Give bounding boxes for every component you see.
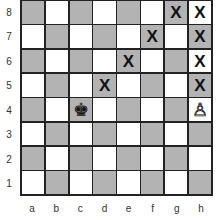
x-mark: X xyxy=(194,4,205,21)
square-d4[interactable] xyxy=(93,98,115,121)
square-c1[interactable] xyxy=(70,171,92,194)
square-a3[interactable] xyxy=(22,123,44,146)
square-e3[interactable] xyxy=(117,123,139,146)
square-c3[interactable] xyxy=(70,123,92,146)
square-h5[interactable]: X xyxy=(189,74,211,97)
square-b3[interactable] xyxy=(46,123,68,146)
square-h8[interactable]: X xyxy=(189,1,211,24)
square-b1[interactable] xyxy=(46,171,68,194)
rank-label: 1 xyxy=(0,172,18,197)
square-g5[interactable] xyxy=(165,74,187,97)
square-g4[interactable] xyxy=(165,98,187,121)
file-label: c xyxy=(68,199,92,217)
rank-label: 5 xyxy=(0,74,18,99)
square-h7[interactable]: X xyxy=(189,25,211,48)
square-f1[interactable] xyxy=(141,171,163,194)
file-label: a xyxy=(20,199,44,217)
white-pawn-icon[interactable]: ♙ xyxy=(192,101,208,119)
square-f7[interactable]: X xyxy=(141,25,163,48)
square-e2[interactable] xyxy=(117,147,139,170)
file-label: f xyxy=(141,199,165,217)
file-label: d xyxy=(92,199,116,217)
file-label: g xyxy=(165,199,189,217)
square-c2[interactable] xyxy=(70,147,92,170)
square-e5[interactable] xyxy=(117,74,139,97)
square-a6[interactable] xyxy=(22,50,44,73)
rank-label: 2 xyxy=(0,147,18,172)
square-a8[interactable] xyxy=(22,1,44,24)
square-f4[interactable] xyxy=(141,98,163,121)
square-b2[interactable] xyxy=(46,147,68,170)
square-g1[interactable] xyxy=(165,171,187,194)
file-labels: abcdefgh xyxy=(20,199,213,217)
square-f6[interactable] xyxy=(141,50,163,73)
rank-label: 8 xyxy=(0,0,18,25)
file-label: h xyxy=(189,199,213,217)
square-h6[interactable]: X xyxy=(189,50,211,73)
square-f3[interactable] xyxy=(141,123,163,146)
square-g7[interactable] xyxy=(165,25,187,48)
x-mark: X xyxy=(99,77,110,94)
square-h3[interactable] xyxy=(189,123,211,146)
black-king-icon[interactable]: ♚ xyxy=(73,101,89,119)
x-mark: X xyxy=(147,28,158,45)
square-d8[interactable] xyxy=(93,1,115,24)
file-label: b xyxy=(44,199,68,217)
square-e7[interactable] xyxy=(117,25,139,48)
square-e1[interactable] xyxy=(117,171,139,194)
square-a5[interactable] xyxy=(22,74,44,97)
square-b8[interactable] xyxy=(46,1,68,24)
file-label: e xyxy=(117,199,141,217)
x-mark: X xyxy=(170,4,181,21)
square-h4[interactable]: ♙ xyxy=(189,98,211,121)
square-d3[interactable] xyxy=(93,123,115,146)
square-f8[interactable] xyxy=(141,1,163,24)
square-h1[interactable] xyxy=(189,171,211,194)
chess-board: XXXXXXXX♚♙ xyxy=(20,0,213,196)
square-g3[interactable] xyxy=(165,123,187,146)
square-a1[interactable] xyxy=(22,171,44,194)
square-b7[interactable] xyxy=(46,25,68,48)
square-g2[interactable] xyxy=(165,147,187,170)
square-c4[interactable]: ♚ xyxy=(70,98,92,121)
square-e8[interactable] xyxy=(117,1,139,24)
square-f2[interactable] xyxy=(141,147,163,170)
rank-label: 7 xyxy=(0,25,18,50)
rank-label: 4 xyxy=(0,98,18,123)
rank-labels: 87654321 xyxy=(0,0,18,196)
square-c5[interactable] xyxy=(70,74,92,97)
square-f5[interactable] xyxy=(141,74,163,97)
square-b4[interactable] xyxy=(46,98,68,121)
square-d6[interactable] xyxy=(93,50,115,73)
x-mark: X xyxy=(123,53,134,70)
x-mark: X xyxy=(194,53,205,70)
square-d5[interactable]: X xyxy=(93,74,115,97)
square-d1[interactable] xyxy=(93,171,115,194)
square-a4[interactable] xyxy=(22,98,44,121)
square-g8[interactable]: X xyxy=(165,1,187,24)
square-a7[interactable] xyxy=(22,25,44,48)
square-c7[interactable] xyxy=(70,25,92,48)
square-a2[interactable] xyxy=(22,147,44,170)
square-e4[interactable] xyxy=(117,98,139,121)
square-c6[interactable] xyxy=(70,50,92,73)
x-mark: X xyxy=(194,77,205,94)
square-e6[interactable]: X xyxy=(117,50,139,73)
rank-label: 6 xyxy=(0,49,18,74)
square-b6[interactable] xyxy=(46,50,68,73)
square-g6[interactable] xyxy=(165,50,187,73)
square-h2[interactable] xyxy=(189,147,211,170)
square-d2[interactable] xyxy=(93,147,115,170)
square-b5[interactable] xyxy=(46,74,68,97)
square-c8[interactable] xyxy=(70,1,92,24)
x-mark: X xyxy=(194,28,205,45)
rank-label: 3 xyxy=(0,123,18,148)
square-d7[interactable] xyxy=(93,25,115,48)
